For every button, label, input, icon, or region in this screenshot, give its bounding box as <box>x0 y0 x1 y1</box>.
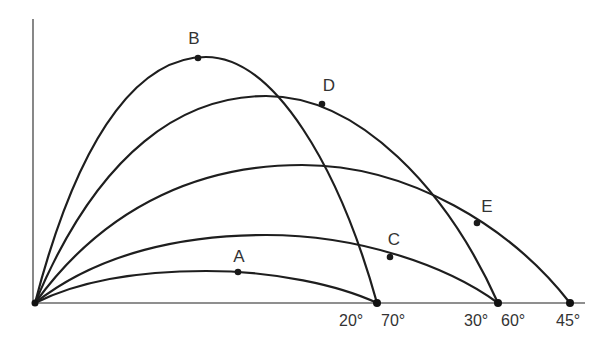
trajectory-30deg <box>35 235 498 303</box>
landing-dot <box>494 299 502 307</box>
trajectory-45deg <box>35 165 570 303</box>
landing-dot <box>373 299 381 307</box>
point-a-label: A <box>233 247 245 266</box>
point-c-dot <box>387 254 394 261</box>
angle-label-20: 20° <box>339 312 363 329</box>
axes <box>33 19 585 303</box>
angle-label-70: 70° <box>381 312 405 329</box>
point-e-dot <box>474 220 481 227</box>
angle-label-60: 60° <box>501 312 525 329</box>
trajectory-curves <box>35 57 570 303</box>
landing-dot <box>566 299 574 307</box>
point-b-dot <box>195 55 202 62</box>
point-b-label: B <box>188 29 199 48</box>
angle-label-30: 30° <box>464 312 488 329</box>
point-d-dot <box>319 101 326 108</box>
trajectory-20deg <box>35 271 377 303</box>
labeled-points: ABCDE <box>188 29 492 275</box>
angle-labels: 20°70°30°60°45° <box>339 312 580 329</box>
origin-dot <box>32 300 39 307</box>
point-a-dot <box>235 269 242 276</box>
point-e-label: E <box>481 197 492 216</box>
projectile-diagram: ABCDE 20°70°30°60°45° <box>0 0 615 338</box>
point-d-label: D <box>323 76 335 95</box>
point-c-label: C <box>388 230 400 249</box>
angle-label-45: 45° <box>556 312 580 329</box>
